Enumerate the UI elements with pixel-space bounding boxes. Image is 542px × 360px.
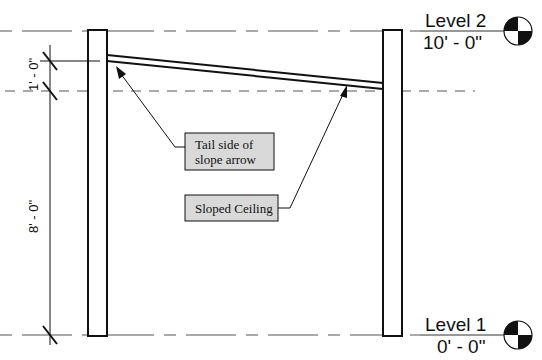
ceiling-label-text: Sloped Ceiling [195, 201, 273, 216]
sloped-ceiling [107, 55, 383, 89]
level-2-name: Level 2 [425, 10, 486, 31]
dimension-lower: 8' - 0" [26, 200, 41, 233]
section-diagram: 1' - 0" 8' - 0" Level 2 10' - 0" Level 1… [0, 0, 542, 360]
level-1-head-icon [504, 321, 532, 349]
tail-leader-arrow [116, 66, 185, 147]
level-1-name: Level 1 [425, 314, 486, 335]
ceiling-label-tag: Sloped Ceiling [185, 195, 278, 221]
tail-label-line1: Tail side of [195, 137, 254, 152]
level-2-head-icon [504, 17, 532, 45]
level-1-elevation: 0' - 0" [437, 336, 485, 357]
right-column [383, 30, 402, 336]
dimension-upper: 1' - 0" [26, 58, 41, 91]
ceiling-leader-arrow [278, 85, 347, 208]
tail-label-line2: slope arrow [195, 152, 257, 167]
left-column [88, 30, 107, 336]
tail-label-tag: Tail side of slope arrow [185, 133, 274, 170]
level-2-elevation: 10' - 0" [423, 32, 482, 53]
